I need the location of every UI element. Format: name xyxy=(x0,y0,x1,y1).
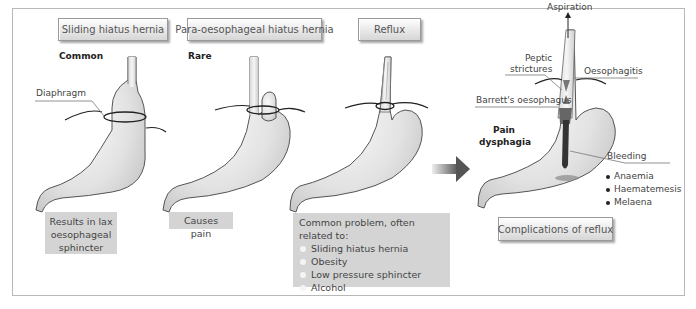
factor-label: Alcohol xyxy=(311,282,346,293)
note-para-oesophageal: Causes pain xyxy=(169,212,233,229)
factor-label: Low pressure sphincter xyxy=(311,269,421,280)
label-peptic-strictures: Peptic strictures xyxy=(510,53,552,75)
factor-item: Alcohol xyxy=(299,281,444,294)
bleeding-effect-item: Anaemia xyxy=(606,170,681,183)
bullet-icon xyxy=(606,201,610,205)
bleeding-effect-item: Haematemesis xyxy=(606,183,681,196)
stomach-reflux xyxy=(290,57,428,212)
factor-item: Obesity xyxy=(299,255,444,268)
label-line: Pain xyxy=(479,124,529,136)
label-line: strictures xyxy=(510,64,552,75)
bullet-icon xyxy=(300,285,306,291)
effect-label: Anaemia xyxy=(614,171,654,181)
bullet-icon xyxy=(606,175,610,179)
bleeding-effect-item: Melaena xyxy=(606,196,681,209)
label-diaphragm: Diaphragm xyxy=(36,88,86,98)
bullet-icon xyxy=(300,246,306,252)
label-bleeding: Bleeding xyxy=(607,151,646,161)
note-line: oesophageal xyxy=(49,228,113,241)
factor-item: Sliding hiatus hernia xyxy=(299,242,444,255)
frequency-rare: Rare xyxy=(188,51,212,61)
label-pain-dysphagia: Pain dysphagia xyxy=(479,124,529,148)
title-sliding-hiatus-hernia: Sliding hiatus hernia xyxy=(58,18,168,41)
factor-item: Low pressure sphincter xyxy=(299,268,444,281)
label-aspiration: Aspiration xyxy=(547,2,593,12)
label-line: dysphagia xyxy=(479,136,529,148)
effect-label: Melaena xyxy=(614,197,652,207)
stomach-sliding-hernia xyxy=(35,57,166,212)
label-line: Peptic xyxy=(510,53,552,64)
arrow-right-icon xyxy=(432,156,470,182)
bullet-icon xyxy=(606,188,610,192)
label-barretts-oesophagus: Barrett's oesophagus xyxy=(476,95,572,105)
bullet-icon xyxy=(300,259,306,265)
factor-label: Sliding hiatus hernia xyxy=(311,243,408,254)
note-line: Results in lax xyxy=(49,215,113,228)
title-reflux: Reflux xyxy=(358,18,421,41)
note-line: sphincter xyxy=(49,241,113,254)
title-para-oesophageal-hernia: Para-oesophageal hiatus hernia xyxy=(187,18,322,41)
factors-heading: Common problem, often related to: xyxy=(299,216,444,242)
label-oesophagitis: Oesophagitis xyxy=(584,66,643,76)
bleeding-effects-list: Anaemia Haematemesis Melaena xyxy=(606,170,681,209)
stomach-para-oesophageal-hernia xyxy=(163,57,305,212)
factor-label: Obesity xyxy=(311,256,347,267)
effect-label: Haematemesis xyxy=(614,184,681,194)
bullet-icon xyxy=(300,272,306,278)
note-sliding-hernia: Results in lax oesophageal sphincter xyxy=(45,212,117,254)
reflux-factors-box: Common problem, often related to: Slidin… xyxy=(293,213,450,287)
note-line: Causes pain xyxy=(173,214,229,240)
frequency-common: Common xyxy=(59,51,103,61)
title-complications-of-reflux: Complications of reflux xyxy=(498,217,613,241)
